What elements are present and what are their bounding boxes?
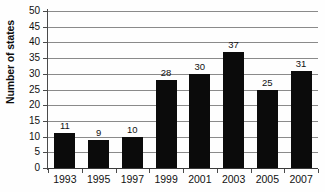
y-axis-tick-label: 15	[16, 116, 40, 126]
gridline	[48, 11, 318, 12]
y-axis-tick	[43, 42, 48, 43]
bar-value-label: 25	[250, 78, 284, 88]
y-axis-title: Number of states	[4, 0, 16, 127]
bar-value-label: 30	[183, 62, 217, 72]
bar-value-label: 28	[149, 68, 183, 78]
y-axis-tick-label: 40	[16, 37, 40, 47]
plot-area: 119102830372531	[48, 11, 318, 168]
y-axis-tick-label: 50	[16, 6, 40, 16]
y-axis-tick	[43, 27, 48, 28]
bar-value-label: 11	[48, 121, 82, 131]
bar-value-label: 31	[284, 59, 318, 69]
y-axis-tick	[43, 74, 48, 75]
y-axis-tick-label: 5	[16, 147, 40, 157]
bar	[223, 52, 244, 168]
y-axis-tick-label: 0	[16, 163, 40, 173]
bar-value-label: 10	[115, 125, 149, 135]
bar	[291, 71, 312, 168]
y-axis-tick-label: 10	[16, 132, 40, 142]
gridline	[48, 27, 318, 28]
y-axis-tick	[43, 105, 48, 106]
x-axis-tick	[318, 169, 319, 173]
gridline	[48, 42, 318, 43]
y-axis-tick	[43, 121, 48, 122]
bar-chart: Number of states 119102830372531 0510152…	[0, 0, 325, 192]
y-axis-tick-label: 30	[16, 69, 40, 79]
x-axis-tick-label: 2007	[281, 173, 321, 185]
y-axis-tick-label: 35	[16, 53, 40, 63]
y-axis-tick-label: 20	[16, 100, 40, 110]
bar	[257, 90, 278, 169]
y-axis-tick	[43, 58, 48, 59]
bar	[156, 80, 177, 168]
gridline	[48, 58, 318, 59]
y-axis-tick-label: 45	[16, 22, 40, 32]
bar	[88, 140, 109, 168]
y-axis-tick-label: 25	[16, 85, 40, 95]
bar	[54, 133, 75, 168]
bar-value-label: 37	[217, 40, 251, 50]
bar	[122, 137, 143, 168]
y-axis-tick	[43, 152, 48, 153]
y-axis-tick	[43, 11, 48, 12]
bar-value-label: 9	[82, 128, 116, 138]
bar	[189, 74, 210, 168]
y-axis-tick	[43, 90, 48, 91]
y-axis-tick	[43, 137, 48, 138]
